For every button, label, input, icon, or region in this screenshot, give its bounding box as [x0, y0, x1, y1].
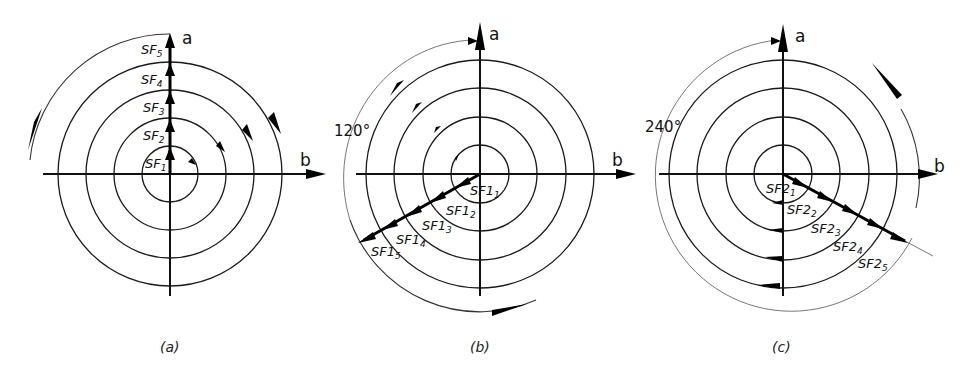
vector-label: SF24	[833, 239, 863, 256]
vector-sf-stack	[165, 33, 175, 174]
vector-label: SF14	[396, 232, 426, 249]
vector-label: SF22	[787, 202, 817, 219]
panel-a: b a SF1 SF2 SF3 SF4 SF5 (a)	[28, 28, 326, 355]
vector-label: SF21	[766, 181, 796, 198]
vector-label: SF4	[141, 72, 163, 89]
ring-direction-arrows	[757, 200, 783, 289]
rotation-arrowhead-icon	[28, 108, 42, 150]
axis-a-arrowhead-icon	[778, 24, 788, 52]
vector-label: SF5	[141, 42, 163, 59]
axis-a-label: a	[182, 28, 192, 48]
axis-b-label: b	[300, 150, 311, 170]
vector-label: SF2	[143, 128, 165, 145]
rotation-arrowhead-icon	[492, 304, 527, 316]
panel-c: b a 240° SF21 SF22 SF23 SF24 SF25 (c)	[645, 24, 945, 355]
panel-caption: (c)	[772, 339, 791, 355]
axis-a-arrowhead-icon	[475, 22, 485, 50]
vector-label: SF12	[446, 203, 476, 220]
axis-b-label: b	[612, 150, 623, 170]
vector-label: SF23	[811, 221, 841, 238]
vector-label: SF11	[470, 183, 500, 200]
rotation-arc	[901, 109, 919, 208]
rotation-angle-label: 120°	[334, 122, 370, 140]
vector-label: SF25	[858, 256, 888, 273]
vector-label: SF3	[143, 100, 165, 117]
rotation-angle-label: 240°	[645, 118, 681, 136]
panel-b: b a 120° SF11 SF12 SF13 SF14 SF15 (b)	[334, 22, 636, 355]
axis-b-label: b	[934, 156, 945, 176]
axis-b-arrowhead-icon	[306, 169, 326, 179]
axis-a-label: a	[795, 26, 805, 46]
panel-caption: (a)	[160, 339, 180, 355]
rotation-arrowhead-icon	[872, 63, 902, 99]
axis-b-arrowhead-icon	[616, 169, 636, 179]
figure-three-panel-vector-diagram: b a SF1 SF2 SF3 SF4 SF5 (a)	[0, 0, 961, 372]
vector-label: SF1	[145, 156, 166, 173]
panel-caption: (b)	[470, 339, 490, 355]
axis-a-label: a	[489, 24, 499, 44]
